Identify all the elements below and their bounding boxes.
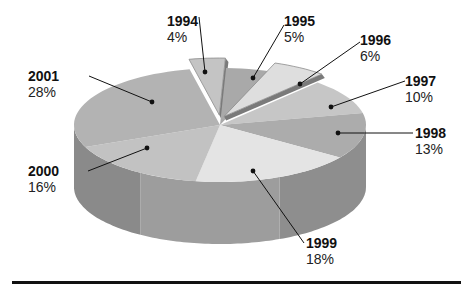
- label-year: 2001: [28, 68, 59, 84]
- label-2000: 2000 16%: [28, 163, 59, 195]
- pie-chart: 1994 4% 1995 5% 1996 6% 1997 10% 1998 13…: [0, 0, 468, 284]
- pie-graphic: [0, 0, 468, 284]
- label-2001: 2001 28%: [28, 68, 59, 100]
- label-year: 1996: [360, 32, 391, 48]
- label-1999: 1999 18%: [306, 235, 337, 267]
- label-year: 2000: [28, 163, 59, 179]
- label-percent: 18%: [306, 251, 337, 267]
- label-1994: 1994 4%: [167, 13, 198, 45]
- label-1995: 1995 5%: [284, 13, 315, 45]
- pie-top-slices: [74, 58, 366, 182]
- label-1997: 1997 10%: [405, 73, 436, 105]
- label-percent: 5%: [284, 29, 315, 45]
- label-1996: 1996 6%: [360, 32, 391, 64]
- label-percent: 16%: [28, 179, 59, 195]
- label-year: 1997: [405, 73, 436, 89]
- label-year: 1995: [284, 13, 315, 29]
- label-1998: 1998 13%: [415, 125, 446, 157]
- label-percent: 6%: [360, 48, 391, 64]
- label-year: 1994: [167, 13, 198, 29]
- label-percent: 13%: [415, 141, 446, 157]
- label-year: 1999: [306, 235, 337, 251]
- label-percent: 28%: [28, 84, 59, 100]
- label-percent: 4%: [167, 29, 198, 45]
- label-percent: 10%: [405, 89, 436, 105]
- label-year: 1998: [415, 125, 446, 141]
